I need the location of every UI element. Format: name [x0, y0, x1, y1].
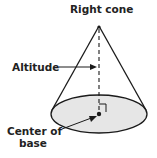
- right-cone-diagram: Right cone Altitude Center of base: [0, 0, 157, 158]
- apex-point: [97, 25, 100, 28]
- altitude-label: Altitude: [12, 61, 59, 73]
- center-label-line1: Center of: [7, 125, 59, 137]
- center-of-base-label: Center of base: [7, 125, 59, 149]
- altitude-arrow-head: [90, 64, 97, 70]
- diagram-title: Right cone: [70, 3, 133, 15]
- center-point: [97, 112, 101, 116]
- center-label-line2: base: [7, 137, 59, 149]
